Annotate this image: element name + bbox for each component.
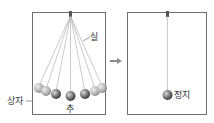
- label-weight: 추: [66, 104, 74, 114]
- weight-right: [163, 90, 173, 100]
- label-box: 상자: [7, 96, 23, 106]
- label-stopped: 정지: [174, 90, 190, 100]
- pendulum-diagram: [0, 0, 214, 123]
- arrow-icon: [110, 58, 122, 64]
- label-string: 실: [90, 32, 98, 42]
